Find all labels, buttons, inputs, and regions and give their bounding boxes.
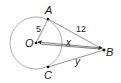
geometry-diagram: A O B C 5 12 x y — [0, 0, 121, 83]
label-ab-length: 12 — [76, 24, 86, 34]
point-c — [47, 66, 50, 69]
label-a: A — [44, 4, 52, 16]
label-ob-x: x — [65, 37, 72, 48]
label-cb-y: y — [74, 56, 81, 67]
label-b: B — [106, 46, 113, 58]
label-oa-length: 5 — [36, 24, 41, 34]
point-a — [47, 18, 50, 21]
point-o — [35, 42, 38, 45]
label-c: C — [44, 69, 52, 81]
label-o: O — [25, 37, 34, 49]
